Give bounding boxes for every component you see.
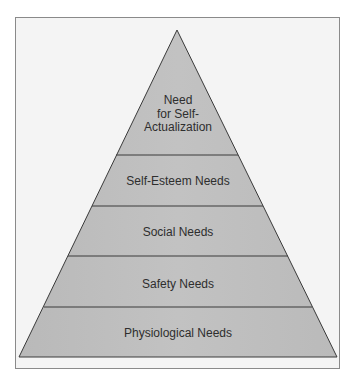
level-social: Social Needs [0, 226, 356, 240]
level-label-line: for Self- [0, 108, 356, 122]
level-self-esteem: Self-Esteem Needs [0, 175, 356, 189]
level-label-line: Actualization [0, 121, 356, 135]
level-physiological: Physiological Needs [0, 327, 356, 341]
level-label-line: Need [0, 94, 356, 108]
level-self-actualization: Need for Self- Actualization [0, 94, 356, 135]
level-safety: Safety Needs [0, 278, 356, 292]
pyramid-shape [19, 30, 337, 357]
